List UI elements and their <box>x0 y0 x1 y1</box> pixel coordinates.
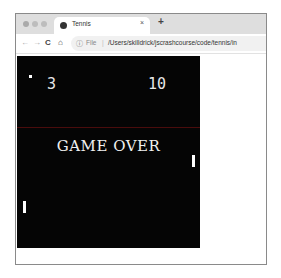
maximize-window-button[interactable] <box>41 21 47 27</box>
center-net-line <box>17 127 200 128</box>
address-bar[interactable]: ⓘ File | /Users/skilldrick/jscrashcourse… <box>71 36 267 51</box>
globe-icon <box>60 22 67 29</box>
reload-icon[interactable]: C <box>45 38 51 47</box>
tab-title: Tennis <box>72 20 91 27</box>
game-over-text: GAME OVER <box>17 137 200 155</box>
minimize-window-button[interactable] <box>32 21 38 27</box>
info-icon[interactable]: ⓘ <box>76 38 83 48</box>
browser-toolbar: ← → C ⌂ ⓘ File | /Users/skilldrick/jscra… <box>16 34 266 54</box>
tab-tennis[interactable]: Tennis × <box>54 17 150 34</box>
browser-window: Tennis × + ← → C ⌂ ⓘ File | /Users/skill… <box>15 13 267 265</box>
forward-arrow-icon[interactable]: → <box>33 38 41 47</box>
new-tab-button[interactable]: + <box>158 16 164 27</box>
page-content: 3 10 GAME OVER <box>16 54 266 264</box>
left-paddle <box>23 201 26 213</box>
tab-bar: Tennis × + <box>16 14 266 34</box>
left-score: 3 <box>47 75 56 93</box>
game-canvas[interactable]: 3 10 GAME OVER <box>17 56 200 248</box>
back-arrow-icon[interactable]: ← <box>21 38 29 47</box>
ball <box>29 75 32 78</box>
right-score: 10 <box>148 75 166 93</box>
home-icon[interactable]: ⌂ <box>58 38 63 47</box>
close-window-button[interactable] <box>23 21 29 27</box>
address-separator: | <box>102 39 104 46</box>
close-tab-icon[interactable]: × <box>140 19 144 26</box>
right-paddle <box>192 155 195 167</box>
url-text[interactable]: /Users/skilldrick/jscrashcourse/code/ten… <box>108 39 237 46</box>
file-scheme-label: File <box>86 39 96 46</box>
